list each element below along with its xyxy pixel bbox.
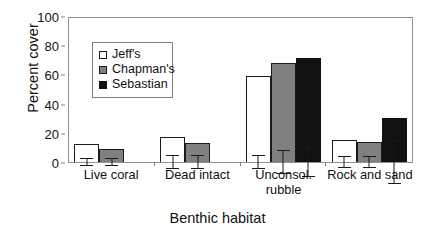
bar[interactable]	[357, 142, 382, 162]
bar-chart: Percent cover 100806040200 Jeff'sChapman…	[0, 0, 435, 243]
y-tick-mark	[61, 163, 65, 164]
legend-swatch-icon	[99, 81, 107, 89]
legend: Jeff'sChapman'sSebastian	[92, 42, 173, 98]
bar[interactable]	[99, 149, 124, 162]
bar-slot	[357, 18, 382, 162]
error-bar-cap	[252, 155, 265, 156]
x-category-label: Rock and sand	[327, 167, 413, 197]
x-category-label: Dead intact	[154, 167, 240, 197]
error-bar-cap	[277, 150, 290, 151]
error-bar	[86, 158, 87, 167]
y-tick-mark	[61, 133, 65, 134]
legend-item-label: Sebastian	[112, 77, 168, 92]
error-bar-cap	[338, 156, 351, 157]
bar-slot	[210, 18, 235, 162]
y-tick-label: 20	[45, 127, 59, 140]
legend-item[interactable]: Chapman's	[99, 62, 167, 77]
bar[interactable]	[296, 58, 321, 162]
legend-swatch-icon	[99, 51, 107, 59]
x-category-label: Live coral	[68, 167, 154, 197]
x-tick-mark	[240, 162, 241, 166]
bar-slot	[332, 18, 357, 162]
error-bar-cap	[191, 155, 204, 156]
bar-slot	[382, 18, 407, 162]
y-tick-mark	[61, 17, 65, 18]
legend-item-label: Jeff's	[112, 47, 141, 62]
bar-group	[241, 18, 327, 162]
x-category-label: Unconsol.rubble	[241, 167, 327, 197]
error-bar-cap	[363, 156, 376, 157]
bar[interactable]	[185, 143, 210, 162]
y-tick-mark	[61, 75, 65, 76]
bar[interactable]	[332, 140, 357, 162]
y-axis-ticks: 100806040200	[24, 17, 64, 163]
y-tick-mark	[61, 104, 65, 105]
y-tick-label: 100	[37, 11, 59, 24]
legend-item-label: Chapman's	[112, 62, 175, 77]
legend-swatch-icon	[99, 66, 107, 74]
y-tick-label: 0	[52, 157, 59, 170]
bar[interactable]	[382, 118, 407, 162]
error-bar-cap	[80, 158, 93, 159]
legend-item[interactable]: Jeff's	[99, 47, 167, 62]
bar-slot	[246, 18, 271, 162]
error-bar-cap	[166, 155, 179, 156]
x-axis-category-labels: Live coralDead intactUnconsol.rubbleRock…	[68, 167, 413, 197]
bar-group	[326, 18, 412, 162]
bar[interactable]	[74, 144, 99, 162]
y-tick-mark	[61, 46, 65, 47]
bar-slot	[271, 18, 296, 162]
error-bar	[111, 158, 112, 167]
x-tick-mark	[325, 162, 326, 166]
bar[interactable]	[271, 63, 296, 162]
y-tick-label: 60	[45, 69, 59, 82]
error-bar-cap	[105, 158, 118, 159]
legend-item[interactable]: Sebastian	[99, 77, 167, 92]
y-tick-label: 40	[45, 98, 59, 111]
error-bar-cap	[302, 147, 315, 148]
bar-slot	[296, 18, 321, 162]
x-tick-mark	[154, 162, 155, 166]
bar[interactable]	[246, 76, 271, 162]
x-axis-title: Benthic habitat	[0, 210, 435, 226]
bar[interactable]	[160, 137, 185, 162]
error-bar-cap	[388, 140, 401, 141]
bar-slot	[185, 18, 210, 162]
y-tick-label: 80	[45, 40, 59, 53]
